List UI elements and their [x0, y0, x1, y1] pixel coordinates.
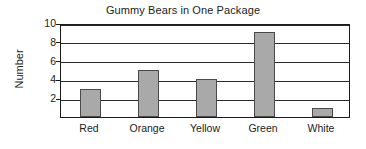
y-axis-title: Number: [12, 36, 26, 102]
y-tick-label: 8: [34, 37, 56, 48]
bar-green: [254, 32, 275, 117]
y-tick-label: 6: [34, 56, 56, 67]
x-tick-label-green: Green: [234, 121, 292, 135]
x-tick-label-orange: Orange: [118, 121, 176, 135]
y-axis-tick-labels: 246810: [34, 24, 56, 118]
y-tick-label: 10: [34, 18, 56, 29]
bars-layer: [61, 25, 349, 117]
bar-chart-figure: Gummy Bears in One Package Number 246810…: [0, 0, 366, 149]
x-tick-label-yellow: Yellow: [176, 121, 234, 135]
y-tick-label: 2: [34, 93, 56, 104]
x-axis-tick-labels: RedOrangeYellowGreenWhite: [60, 121, 350, 137]
y-tick-label: 4: [34, 74, 56, 85]
plot-area: [60, 24, 350, 118]
bar-orange: [138, 70, 159, 117]
bar-red: [80, 89, 101, 117]
bar-white: [312, 108, 333, 117]
x-tick-label-white: White: [292, 121, 350, 135]
chart-title: Gummy Bears in One Package: [0, 4, 366, 17]
bar-yellow: [196, 79, 217, 117]
x-tick-label-red: Red: [60, 121, 118, 135]
